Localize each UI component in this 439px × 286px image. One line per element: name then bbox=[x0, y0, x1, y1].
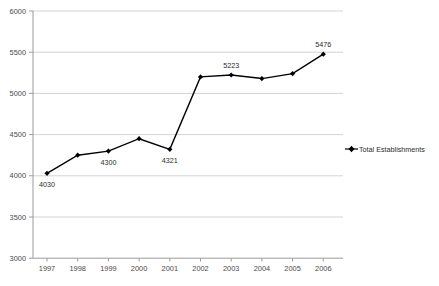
data-point-label: 5223 bbox=[223, 61, 239, 70]
y-tick-label: 5500 bbox=[10, 48, 26, 57]
x-tick-label: 2001 bbox=[162, 264, 178, 273]
chart-container: 6000 5500 5000 4500 4000 3500 3000 1997 … bbox=[0, 0, 439, 286]
x-tick-label: 2003 bbox=[223, 264, 239, 273]
x-tick-label: 2006 bbox=[315, 264, 331, 273]
legend-diamond-icon bbox=[349, 146, 355, 152]
legend-label: Total Establishments bbox=[359, 145, 425, 154]
y-tick-label: 6000 bbox=[10, 7, 26, 16]
data-point-marker bbox=[198, 74, 203, 79]
y-tick-label: 4500 bbox=[10, 130, 26, 139]
y-tick-label: 5000 bbox=[10, 89, 26, 98]
y-tick-label: 3500 bbox=[10, 213, 26, 222]
data-point-marker bbox=[137, 136, 142, 141]
y-axis-ticks bbox=[29, 11, 33, 258]
data-point-marker bbox=[167, 147, 172, 152]
x-tick-label: 1997 bbox=[39, 264, 55, 273]
data-point-label: 4030 bbox=[39, 180, 55, 189]
data-point-marker bbox=[259, 76, 264, 81]
y-tick-label: 4000 bbox=[10, 171, 26, 180]
y-tick-label: 3000 bbox=[10, 254, 26, 263]
series-line-total-establishments bbox=[47, 54, 323, 173]
y-axis-tick-labels: 6000 5500 5000 4500 4000 3500 3000 bbox=[10, 7, 26, 263]
data-point-label: 4321 bbox=[162, 156, 178, 165]
x-tick-label: 2000 bbox=[131, 264, 147, 273]
data-point-marker bbox=[229, 72, 234, 77]
x-tick-label: 1999 bbox=[100, 264, 116, 273]
grid-lines bbox=[33, 11, 343, 217]
data-point-label: 5476 bbox=[315, 40, 331, 49]
data-point-marker bbox=[106, 148, 111, 153]
x-axis-tick-labels: 1997 1998 1999 2000 2001 2002 2003 2004 … bbox=[39, 264, 332, 273]
data-point-label: 4300 bbox=[100, 158, 116, 167]
x-tick-label: 2004 bbox=[254, 264, 270, 273]
x-tick-label: 2002 bbox=[192, 264, 208, 273]
legend: Total Establishments bbox=[345, 145, 425, 154]
x-tick-label: 1998 bbox=[69, 264, 85, 273]
line-chart-svg: 6000 5500 5000 4500 4000 3500 3000 1997 … bbox=[0, 0, 439, 286]
x-tick-label: 2005 bbox=[284, 264, 300, 273]
